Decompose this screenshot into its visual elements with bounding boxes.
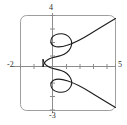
x-axis-min-label: -2 [7, 61, 14, 69]
y-axis-max-label: 4 [49, 4, 53, 12]
y-axis-min-label: -3 [49, 112, 56, 120]
plot-frame [21, 16, 116, 111]
x-axis-max-label: 5 [118, 61, 122, 69]
curve-plot-figure [0, 0, 127, 125]
plot-screenshot: 4 -3 -2 5 [0, 0, 127, 125]
